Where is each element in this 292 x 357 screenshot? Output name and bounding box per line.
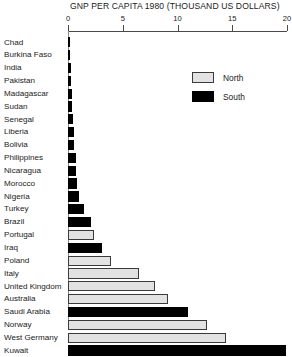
legend-swatch-south-icon bbox=[192, 91, 214, 102]
bar bbox=[68, 281, 155, 291]
bar-row: Turkey bbox=[0, 203, 292, 216]
bar-rows: ChadBurkina FasoIndiaPakistanMadagascarS… bbox=[0, 36, 292, 357]
bar-row-label: West Germany bbox=[4, 332, 58, 343]
bar-row-label: Saudi Arabia bbox=[4, 306, 50, 317]
bar-row: Australia bbox=[0, 293, 292, 306]
bar bbox=[68, 63, 71, 73]
bar bbox=[68, 153, 76, 163]
bar-row: United Kingdom bbox=[0, 280, 292, 293]
x-axis-tick-label: 15 bbox=[228, 14, 236, 23]
bar-row: Saudi Arabia bbox=[0, 306, 292, 319]
bar bbox=[68, 333, 226, 343]
bar-row: Portugal bbox=[0, 229, 292, 242]
bar-row-label: Philippines bbox=[4, 152, 43, 163]
legend-label-south: South bbox=[223, 92, 245, 102]
bar bbox=[68, 178, 77, 188]
bar-row: Liberia bbox=[0, 126, 292, 139]
bar-row: Bolivia bbox=[0, 139, 292, 152]
chart-title: GNP PER CAPITA 1980 (THOUSAND US DOLLARS… bbox=[70, 1, 280, 11]
bar-row: Kuwait bbox=[0, 344, 292, 357]
bar bbox=[68, 345, 286, 355]
bar-row: Burkina Faso bbox=[0, 49, 292, 62]
bar-row: Madagascar bbox=[0, 87, 292, 100]
legend-item-south: South bbox=[192, 87, 245, 106]
bar bbox=[68, 140, 74, 150]
bar-row-label: Nigeria bbox=[4, 191, 30, 202]
bar-row: Chad bbox=[0, 36, 292, 49]
chart-legend: North South bbox=[192, 68, 245, 106]
x-axis-tick bbox=[232, 25, 233, 31]
bar bbox=[68, 101, 72, 111]
bar bbox=[68, 307, 188, 317]
bar-row: Morocco bbox=[0, 177, 292, 190]
bar bbox=[68, 191, 79, 201]
x-axis: 05101520 bbox=[0, 14, 292, 34]
bar bbox=[68, 76, 71, 86]
bar-row-label: Poland bbox=[4, 255, 29, 266]
bar-row: Poland bbox=[0, 254, 292, 267]
bar-row-label: Pakistan bbox=[4, 75, 35, 86]
legend-swatch-north-icon bbox=[192, 72, 214, 83]
bar-row-label: Kuwait bbox=[4, 345, 28, 356]
bar-row-label: Madagascar bbox=[4, 88, 49, 99]
bar bbox=[68, 114, 73, 124]
bar-row: Philippines bbox=[0, 152, 292, 165]
bar-row-label: Australia bbox=[4, 293, 36, 304]
bar-row-label: Nicaragua bbox=[4, 165, 41, 176]
bar-row-label: Turkey bbox=[4, 203, 28, 214]
bar-row: Senegal bbox=[0, 113, 292, 126]
x-axis-tick bbox=[123, 25, 124, 31]
bar bbox=[68, 243, 102, 253]
bar-row-label: Liberia bbox=[4, 126, 28, 137]
x-axis-tick bbox=[178, 25, 179, 31]
bar-row: Pakistan bbox=[0, 75, 292, 88]
bar bbox=[68, 294, 168, 304]
bar-row: Nigeria bbox=[0, 190, 292, 203]
bar bbox=[68, 256, 111, 266]
bar-row-label: Brazil bbox=[4, 216, 24, 227]
legend-label-north: North bbox=[223, 73, 243, 83]
bar-row: Brazil bbox=[0, 216, 292, 229]
bar-row: Nicaragua bbox=[0, 164, 292, 177]
x-axis-tick-label: 0 bbox=[66, 14, 70, 23]
bar bbox=[68, 204, 84, 214]
bar-row-label: Chad bbox=[4, 37, 23, 48]
bar-row-label: Italy bbox=[4, 268, 19, 279]
legend-item-north: North bbox=[192, 68, 245, 87]
bar bbox=[68, 37, 70, 47]
bar-row-label: United Kingdom bbox=[4, 281, 62, 292]
bar-row: Italy bbox=[0, 267, 292, 280]
bar bbox=[68, 230, 94, 240]
bar-row: India bbox=[0, 62, 292, 75]
bar bbox=[68, 268, 139, 278]
x-axis-tick bbox=[287, 25, 288, 31]
x-axis-tick-label: 10 bbox=[173, 14, 181, 23]
bar-row-label: Burkina Faso bbox=[4, 49, 52, 60]
bar-row-label: Morocco bbox=[4, 178, 35, 189]
bar-row-label: Bolivia bbox=[4, 139, 28, 150]
bar-row: West Germany bbox=[0, 331, 292, 344]
bar-row: Sudan bbox=[0, 100, 292, 113]
bar-row-label: Iraq bbox=[4, 242, 18, 253]
bar-row-label: Norway bbox=[4, 319, 31, 330]
x-axis-line bbox=[68, 31, 287, 32]
bar-row-label: Senegal bbox=[4, 114, 34, 125]
bar-row-label: India bbox=[4, 62, 22, 73]
bar bbox=[68, 50, 70, 60]
bar bbox=[68, 89, 72, 99]
bar bbox=[68, 217, 91, 227]
x-axis-tick-label: 5 bbox=[121, 14, 125, 23]
bar bbox=[68, 127, 74, 137]
bar bbox=[68, 166, 76, 176]
bar-row: Norway bbox=[0, 319, 292, 332]
bar bbox=[68, 320, 207, 330]
bar-row: Iraq bbox=[0, 242, 292, 255]
bar-row-label: Sudan bbox=[4, 101, 27, 112]
bar-row-label: Portugal bbox=[4, 229, 34, 240]
x-axis-tick-label: 20 bbox=[283, 14, 291, 23]
